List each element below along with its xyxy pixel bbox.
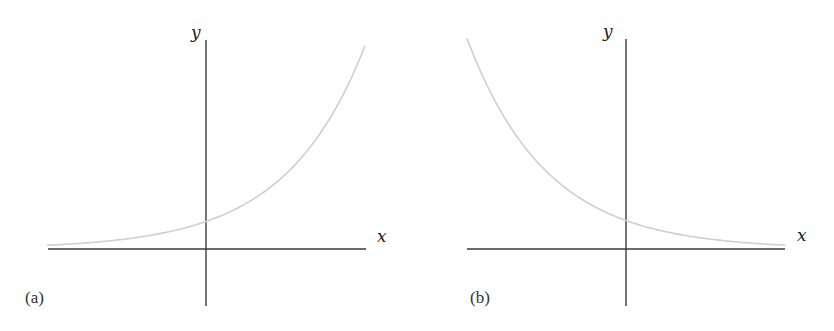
figure-canvas: y x (a) y x (b)	[0, 0, 834, 331]
panel-b-caption: (b)	[470, 288, 490, 307]
panel-b: y x (b)	[467, 21, 807, 307]
panel-a-x-label: x	[377, 226, 387, 246]
panel-a: y x (a)	[25, 22, 387, 307]
panel-a-y-label: y	[190, 22, 201, 42]
panel-b-x-label: x	[797, 225, 807, 245]
panel-a-caption: (a)	[25, 288, 44, 307]
panel-b-y-label: y	[602, 21, 613, 41]
